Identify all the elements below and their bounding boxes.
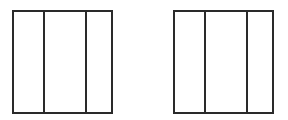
vertical-divider bbox=[43, 12, 45, 112]
vertical-divider bbox=[204, 12, 206, 112]
left-rectangle bbox=[12, 10, 113, 114]
vertical-divider bbox=[246, 12, 248, 112]
vertical-divider bbox=[85, 12, 87, 112]
right-rectangle bbox=[173, 10, 274, 114]
